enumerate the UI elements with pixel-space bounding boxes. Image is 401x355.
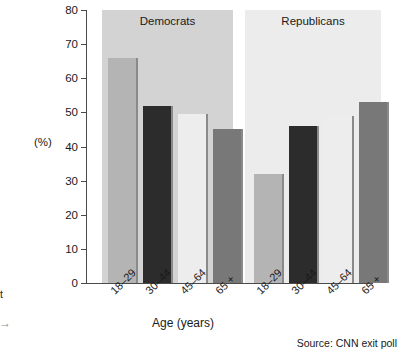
y-tick-40 xyxy=(81,147,86,148)
bar-dem-30-44 xyxy=(143,106,171,283)
y-axis-title: (%) xyxy=(34,136,52,148)
bar-rep-30-44 xyxy=(289,126,317,283)
panel-title-democrats: Democrats xyxy=(102,15,233,27)
y-tick-10 xyxy=(81,249,86,250)
y-tick-70 xyxy=(81,44,86,45)
source-note: Source: CNN exit poll xyxy=(297,337,397,349)
y-tick-30 xyxy=(81,181,86,182)
y-tick-50 xyxy=(81,112,86,113)
y-tick-label-30: 30 xyxy=(65,175,78,187)
panel-title-republicans: Republicans xyxy=(245,15,381,27)
y-tick-80 xyxy=(81,10,86,11)
y-tick-20 xyxy=(81,215,86,216)
y-tick-label-60: 60 xyxy=(65,72,78,84)
y-tick-label-80: 80 xyxy=(65,4,78,16)
bar-dem-18-29 xyxy=(108,58,136,283)
y-tick-label-20: 20 xyxy=(65,209,78,221)
y-tick-60 xyxy=(81,78,86,79)
chart-figure: ent n → Democrats Republicans (%) 80 70 … xyxy=(0,0,401,355)
y-tick-label-10: 10 xyxy=(65,243,78,255)
bar-rep-45-64 xyxy=(324,116,352,283)
y-tick-label-70: 70 xyxy=(65,38,78,50)
bar-dem-45-64 xyxy=(178,114,206,283)
y-tick-label-50: 50 xyxy=(65,106,78,118)
bar-dem-65plus xyxy=(213,129,241,283)
y-tick-label-40: 40 xyxy=(65,141,78,153)
bar-rep-18-29 xyxy=(254,174,282,283)
plot-area: Democrats Republicans (%) 80 70 60 50 40… xyxy=(86,10,371,283)
bar-rep-65plus xyxy=(359,102,387,283)
x-axis-title: Age (years) xyxy=(152,316,214,330)
y-axis-line xyxy=(86,10,87,284)
right-arrow-icon: → xyxy=(0,316,11,330)
margin-caption-line-1: ent xyxy=(0,288,3,300)
y-tick-label-0: 0 xyxy=(72,277,78,289)
margin-caption-line-2: n → xyxy=(0,316,11,330)
